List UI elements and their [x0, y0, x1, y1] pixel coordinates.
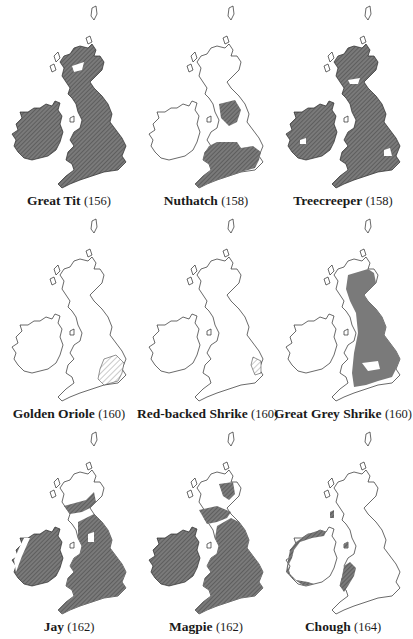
species-name: Treecreeper	[293, 193, 362, 208]
distribution-map	[137, 426, 275, 619]
map-panel-great-tit: Great Tit (156)	[0, 0, 138, 213]
map-panel-chough: Chough (164)	[274, 426, 412, 639]
map-caption: Jay (162)	[0, 619, 138, 635]
species-name: Magpie	[169, 619, 213, 634]
distribution-map	[0, 0, 138, 193]
map-caption: Great Tit (156)	[0, 193, 138, 209]
species-name: Chough	[305, 619, 351, 634]
page-reference: (164)	[354, 620, 381, 634]
distribution-map	[274, 426, 412, 619]
page-reference: (160)	[98, 407, 125, 421]
map-panel-treecreeper: Treecreeper (158)	[274, 0, 412, 213]
species-name: Nuthatch	[164, 193, 218, 208]
page-reference: (162)	[67, 620, 94, 634]
distribution-map	[274, 0, 412, 193]
map-caption: Chough (164)	[274, 619, 412, 635]
species-name: Great Tit	[27, 193, 81, 208]
map-caption: Golden Oriole (160)	[0, 406, 138, 422]
map-caption: Nuthatch (158)	[137, 193, 275, 209]
page-reference: (158)	[221, 194, 248, 208]
distribution-map	[137, 213, 275, 406]
map-caption: Red-backed Shrike (160)	[137, 406, 275, 422]
map-caption: Treecreeper (158)	[274, 193, 412, 209]
distribution-map	[0, 213, 138, 406]
map-caption: Magpie (162)	[137, 619, 275, 635]
distribution-map	[274, 213, 412, 406]
map-panel-great-grey-shrike: Great Grey Shrike (160)	[274, 213, 412, 426]
map-panel-golden-oriole: Golden Oriole (160)	[0, 213, 138, 426]
page-reference: (156)	[84, 194, 111, 208]
distribution-map	[0, 426, 138, 619]
map-panel-red-backed-shrike: Red-backed Shrike (160)	[137, 213, 275, 426]
map-panel-jay: Jay (162)	[0, 426, 138, 639]
map-panel-magpie: Magpie (162)	[137, 426, 275, 639]
species-name: Great Grey Shrike	[274, 406, 382, 421]
species-name: Jay	[44, 619, 64, 634]
page-reference: (162)	[216, 620, 243, 634]
map-caption: Great Grey Shrike (160)	[274, 406, 412, 422]
species-name: Red-backed Shrike	[137, 406, 248, 421]
page-reference: (158)	[366, 194, 393, 208]
page-reference: (160)	[385, 407, 412, 421]
map-panel-nuthatch: Nuthatch (158)	[137, 0, 275, 213]
species-name: Golden Oriole	[13, 406, 95, 421]
distribution-map	[137, 0, 275, 193]
species-distribution-map-grid: Great Tit (156) Nuthatch (158) Treecreep…	[0, 0, 413, 639]
